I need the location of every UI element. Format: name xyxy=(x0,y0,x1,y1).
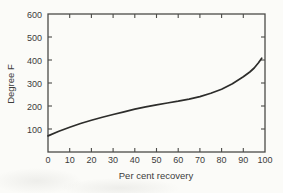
y-axis-label: Degree F xyxy=(5,64,16,104)
x-tick-label: 90 xyxy=(238,155,248,165)
x-tick-label: 80 xyxy=(217,155,227,165)
y-tick-label: 200 xyxy=(27,102,42,112)
x-tick-label: 30 xyxy=(108,155,118,165)
x-tick-label: 50 xyxy=(151,155,161,165)
x-tick-label: 100 xyxy=(257,155,272,165)
x-tick-label: 40 xyxy=(130,155,140,165)
y-tick-label: 600 xyxy=(27,10,42,20)
y-tick-label: 500 xyxy=(27,33,42,43)
x-tick-label: 10 xyxy=(65,155,75,165)
distillation-chart: 0102030405060708090100100200300400500600… xyxy=(0,0,283,193)
x-tick-label: 70 xyxy=(195,155,205,165)
y-tick-label: 400 xyxy=(27,56,42,66)
x-tick-label: 20 xyxy=(86,155,96,165)
y-tick-label: 300 xyxy=(27,79,42,89)
x-tick-label: 60 xyxy=(173,155,183,165)
y-tick-label: 100 xyxy=(27,125,42,135)
x-tick-label: 0 xyxy=(45,155,50,165)
x-axis-label: Per cent recovery xyxy=(119,170,193,181)
distillation-curve xyxy=(48,58,262,136)
chart-canvas: 0102030405060708090100100200300400500600 xyxy=(0,0,283,193)
